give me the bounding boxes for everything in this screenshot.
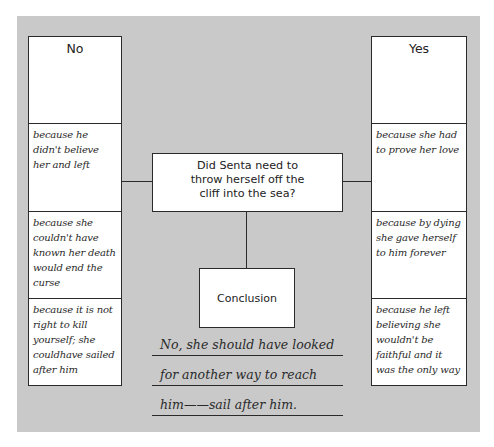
yes-header: Yes xyxy=(371,36,467,124)
question-box: Did Senta need to throw herself off the … xyxy=(152,153,343,212)
yes-reason-1: because she had to prove her love xyxy=(371,123,467,212)
question-line-2: throw herself off the xyxy=(153,173,342,187)
no-reason-2: because she couldn't have known her deat… xyxy=(28,211,122,299)
connector-right xyxy=(343,181,371,182)
no-header: No xyxy=(28,36,122,124)
connector-down xyxy=(246,211,247,268)
connector-left xyxy=(122,181,152,182)
conclusion-answer-line-2: for another way to reach xyxy=(152,364,343,386)
yes-header-label: Yes xyxy=(409,41,429,56)
conclusion-answer-line-1: No, she should have looked xyxy=(152,334,343,356)
yes-reason-2: because by dying she gave herself to him… xyxy=(371,211,467,299)
conclusion-label: Conclusion xyxy=(217,292,277,305)
no-reason-1: because he didn't believe her and left xyxy=(28,123,122,212)
conclusion-box: Conclusion xyxy=(199,268,295,328)
question-line-3: cliff into the sea? xyxy=(153,187,342,201)
question-line-1: Did Senta need to xyxy=(153,159,342,173)
no-reason-3: because it is not right to kill yourself… xyxy=(28,298,122,386)
yes-reason-3: because he left believing she wouldn't b… xyxy=(371,298,467,386)
conclusion-answer-line-3: him——sail after him. xyxy=(152,394,343,416)
no-header-label: No xyxy=(67,41,84,56)
